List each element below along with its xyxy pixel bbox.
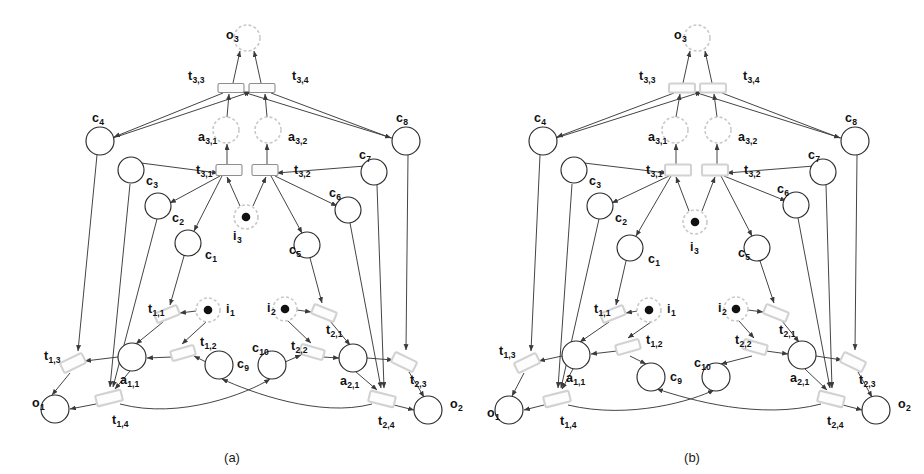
- place-c3[interactable]: [561, 157, 587, 183]
- place-i2[interactable]: [724, 297, 748, 321]
- place-c7[interactable]: [810, 159, 836, 185]
- transition-label-t14: t1,4: [560, 414, 577, 430]
- transition-t33[interactable]: [669, 84, 695, 93]
- place-i1[interactable]: [196, 298, 220, 322]
- transition-bar-t23[interactable]: [840, 352, 866, 372]
- transition-t23[interactable]: [391, 352, 417, 372]
- place-c9[interactable]: [637, 363, 665, 391]
- transition-bar-t34[interactable]: [249, 84, 275, 93]
- place-circle-a21[interactable]: [339, 344, 367, 372]
- place-circle-a32[interactable]: [705, 117, 731, 143]
- place-circle-c2[interactable]: [587, 193, 613, 219]
- transition-bar-t12[interactable]: [170, 345, 196, 361]
- place-circle-c4[interactable]: [86, 127, 114, 155]
- transition-t31[interactable]: [216, 165, 242, 176]
- place-circle-o2[interactable]: [862, 396, 890, 424]
- transition-bar-t31[interactable]: [665, 165, 691, 176]
- transition-t24[interactable]: [817, 391, 845, 408]
- transition-bar-t32[interactable]: [702, 165, 728, 176]
- place-circle-c7[interactable]: [361, 159, 387, 185]
- transition-t14[interactable]: [543, 391, 571, 408]
- place-c8[interactable]: [392, 127, 420, 155]
- transition-label-t32: t3,2: [744, 163, 761, 179]
- transition-t21[interactable]: [763, 304, 789, 322]
- place-circle-c4[interactable]: [529, 127, 557, 155]
- transition-t33[interactable]: [218, 84, 244, 93]
- place-i1[interactable]: [637, 298, 661, 322]
- place-o2[interactable]: [862, 396, 890, 424]
- transition-bar-t13[interactable]: [60, 353, 86, 373]
- place-circle-c8[interactable]: [392, 127, 420, 155]
- caption-b: (b): [684, 450, 700, 465]
- transition-t32[interactable]: [252, 165, 278, 176]
- place-circle-c9[interactable]: [637, 363, 665, 391]
- transition-bar-t23[interactable]: [391, 352, 417, 372]
- place-circle-a11[interactable]: [118, 343, 146, 371]
- transition-t32[interactable]: [702, 165, 728, 176]
- place-a32[interactable]: [255, 117, 281, 143]
- place-circle-c9[interactable]: [205, 351, 233, 379]
- place-circle-c1[interactable]: [617, 235, 643, 261]
- transition-bar-t21[interactable]: [763, 304, 789, 322]
- place-a11[interactable]: [118, 343, 146, 371]
- place-a21[interactable]: [339, 344, 367, 372]
- arc-t14-to-c10: [120, 379, 270, 409]
- transition-bar-t14[interactable]: [95, 390, 123, 407]
- place-c7[interactable]: [361, 159, 387, 185]
- place-circle-c7[interactable]: [810, 159, 836, 185]
- place-circle-c3[interactable]: [118, 157, 144, 183]
- transition-bar-t14[interactable]: [543, 391, 571, 408]
- transition-t12[interactable]: [615, 339, 641, 355]
- place-c1[interactable]: [617, 235, 643, 261]
- place-circle-o3[interactable]: [684, 25, 710, 51]
- arc-i1-to-t11: [180, 311, 196, 313]
- place-i3[interactable]: [683, 210, 707, 234]
- place-o2[interactable]: [414, 396, 442, 424]
- place-c2[interactable]: [587, 193, 613, 219]
- transition-t21[interactable]: [311, 304, 337, 322]
- transition-bar-t34[interactable]: [700, 84, 726, 93]
- place-a32[interactable]: [705, 117, 731, 143]
- transition-bar-t32[interactable]: [252, 165, 278, 176]
- transition-t14[interactable]: [95, 390, 123, 407]
- transition-t13[interactable]: [60, 353, 86, 373]
- place-c4[interactable]: [529, 127, 557, 155]
- transition-bar-t31[interactable]: [216, 165, 242, 176]
- place-c3[interactable]: [118, 157, 144, 183]
- place-circle-a11[interactable]: [562, 341, 590, 369]
- transition-bar-t12[interactable]: [615, 339, 641, 355]
- place-i3[interactable]: [234, 205, 258, 229]
- place-circle-a32[interactable]: [255, 117, 281, 143]
- place-circle-o2[interactable]: [414, 396, 442, 424]
- place-circle-o1[interactable]: [41, 395, 69, 423]
- transition-bar-t33[interactable]: [218, 84, 244, 93]
- place-circle-c8[interactable]: [841, 127, 869, 155]
- transition-t23[interactable]: [840, 352, 866, 372]
- place-circle-c2[interactable]: [145, 193, 171, 219]
- place-circle-c1[interactable]: [175, 230, 201, 256]
- transition-t34[interactable]: [249, 84, 275, 93]
- place-c2[interactable]: [145, 193, 171, 219]
- transition-t34[interactable]: [700, 84, 726, 93]
- place-a21[interactable]: [788, 341, 816, 369]
- transition-t31[interactable]: [665, 165, 691, 176]
- transition-bar-t21[interactable]: [311, 304, 337, 322]
- arc-t14-to-c10: [568, 390, 714, 410]
- transition-t24[interactable]: [368, 391, 396, 408]
- transition-bar-t33[interactable]: [669, 84, 695, 93]
- transition-bar-t13[interactable]: [514, 353, 540, 373]
- place-a11[interactable]: [562, 341, 590, 369]
- place-circle-c3[interactable]: [561, 157, 587, 183]
- transition-bar-t24[interactable]: [368, 391, 396, 408]
- place-i2[interactable]: [273, 297, 297, 321]
- transition-bar-t24[interactable]: [817, 391, 845, 408]
- place-circle-a21[interactable]: [788, 341, 816, 369]
- place-c8[interactable]: [841, 127, 869, 155]
- place-c9[interactable]: [205, 351, 233, 379]
- place-c1[interactable]: [175, 230, 201, 256]
- transition-t13[interactable]: [514, 353, 540, 373]
- place-o3[interactable]: [684, 25, 710, 51]
- place-o1[interactable]: [41, 395, 69, 423]
- place-c4[interactable]: [86, 127, 114, 155]
- transition-t12[interactable]: [170, 345, 196, 361]
